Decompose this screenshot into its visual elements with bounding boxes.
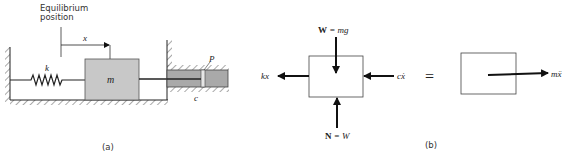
damper-piston (201, 70, 205, 87)
caption-a: (a) (102, 142, 114, 152)
normal-expression: = W (332, 131, 352, 141)
cylinder-top-hatch (167, 65, 229, 70)
mass-label: m (107, 74, 114, 85)
normal-label: N = W (325, 131, 351, 141)
right-wall-hatch (167, 40, 172, 69)
weight-expression: = mg (327, 25, 349, 35)
weight-label: W = mg (318, 25, 349, 35)
damper-label: c (194, 93, 198, 103)
equilibrium-label-line2: position (40, 12, 74, 22)
spring-force-label: kx (261, 71, 269, 81)
panel-a: Equilibrium position x k m P c (a) (5, 3, 229, 152)
spring (10, 75, 85, 85)
weight-symbol: W (318, 25, 327, 35)
inertia-label: mẍ (551, 69, 562, 79)
left-wall-hatch (5, 47, 10, 102)
piston-label: P (208, 54, 215, 64)
caption-b: (b) (425, 140, 437, 150)
spring-mass-damper-figure: Equilibrium position x k m P c (a) (0, 0, 565, 157)
spring-label: k (45, 63, 50, 73)
equals-sign: = (425, 68, 434, 85)
floor-hatch (10, 100, 168, 105)
panel-b: W = mg N = W kx cẋ = mẍ (b) (261, 25, 562, 150)
damper-force-label: cẋ (397, 71, 405, 81)
displacement-label: x (82, 33, 87, 43)
cylinder-bottom-hatch (167, 87, 229, 92)
